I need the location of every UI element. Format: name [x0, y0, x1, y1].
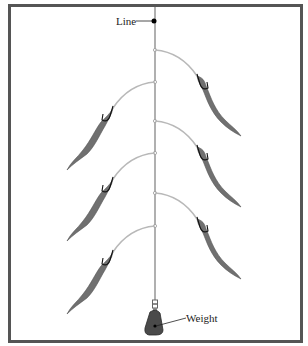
dropper-leader: [155, 50, 197, 76]
dropper-right-5: [153, 191, 241, 279]
swivel: [153, 300, 158, 311]
dropper-leader: [113, 153, 155, 179]
dropper-right-3: [153, 119, 241, 207]
dropper-leader: [113, 226, 155, 252]
worm-bait: [197, 147, 241, 207]
rig-diagram: Line Weight: [0, 0, 308, 346]
dropper-leader: [155, 121, 197, 147]
dropper-left-2: [67, 80, 157, 170]
worm-bait: [67, 252, 113, 314]
dropper-left-6: [67, 224, 157, 314]
dropper-leader: [113, 82, 155, 108]
weight-sinker: [145, 310, 163, 335]
worm-bait: [67, 179, 113, 241]
line-label-dot: [152, 19, 157, 24]
dropper-leader: [155, 193, 197, 219]
worm-bait: [197, 76, 241, 136]
worm-bait: [197, 219, 241, 279]
weight-label: Weight: [186, 312, 218, 324]
line-label: Line: [116, 15, 136, 27]
worm-bait: [67, 108, 113, 170]
